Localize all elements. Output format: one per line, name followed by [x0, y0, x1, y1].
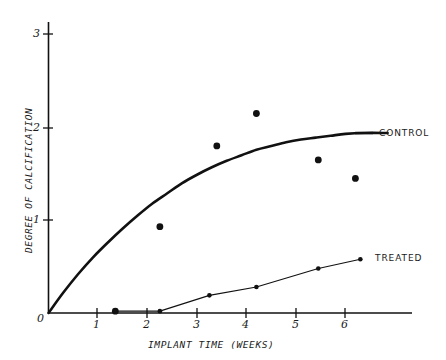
control-data-point [213, 143, 220, 150]
control-data-point [315, 156, 322, 163]
y-tick-label-2: 2 [33, 122, 40, 133]
x-tick-label-2: 2 [143, 319, 150, 330]
origin-tick-label: 0 [37, 313, 44, 324]
treated-series-line [115, 259, 360, 311]
chart-canvas [0, 0, 446, 360]
calcification-chart-figure: 3 2 1 0 1 2 3 4 5 6 DEGREE OF CALCIFICAT… [0, 0, 446, 360]
control-series-label: CONTROL [379, 129, 429, 138]
x-tick-label-4: 4 [242, 319, 249, 330]
y-tick-label-3: 3 [33, 28, 40, 39]
control-fitted-curve [49, 133, 388, 313]
treated-series-label: TREATED [375, 254, 422, 263]
treated-data-point [207, 293, 212, 298]
x-tick-label-1: 1 [93, 319, 100, 330]
treated-data-point [316, 266, 321, 271]
x-tick-label-3: 3 [193, 319, 200, 330]
control-data-points [112, 110, 359, 314]
treated-data-point [113, 309, 118, 314]
treated-data-point [358, 257, 363, 262]
x-axis-title: IMPLANT TIME (WEEKS) [148, 340, 274, 350]
control-data-point [253, 110, 260, 117]
y-axis-title: DEGREE OF CALCIFICATION [24, 108, 34, 253]
control-data-point [352, 175, 359, 182]
control-data-point [156, 223, 163, 230]
y-tick-label-1: 1 [33, 214, 40, 225]
treated-data-points [113, 257, 363, 314]
x-tick-label-5: 5 [292, 319, 299, 330]
treated-data-point [158, 309, 163, 314]
treated-data-point [254, 285, 259, 290]
x-tick-label-6: 6 [341, 319, 348, 330]
